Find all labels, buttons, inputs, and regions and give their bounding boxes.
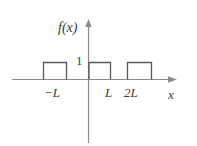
- x-axis-arrowhead: [168, 76, 177, 83]
- pulse-rect-2: [89, 63, 111, 80]
- x-axis-label: x: [168, 88, 174, 101]
- y-axis-arrowhead: [85, 19, 91, 27]
- pulse-rect-3: [128, 63, 152, 80]
- x-axis: [12, 76, 177, 83]
- y-axis-label: f(x): [58, 21, 77, 35]
- amplitude-label: 1: [76, 54, 83, 67]
- y-axis: [85, 19, 91, 143]
- pulse-rect-1: [44, 63, 67, 80]
- x-tick-label-l: L: [105, 86, 112, 99]
- x-tick-label-neg-l: −L: [44, 86, 60, 99]
- plot-canvas: [0, 0, 197, 146]
- piecewise-pulse-train-figure: f(x) 1 −L L 2L x: [0, 0, 197, 146]
- x-tick-label-2l: 2L: [124, 86, 138, 99]
